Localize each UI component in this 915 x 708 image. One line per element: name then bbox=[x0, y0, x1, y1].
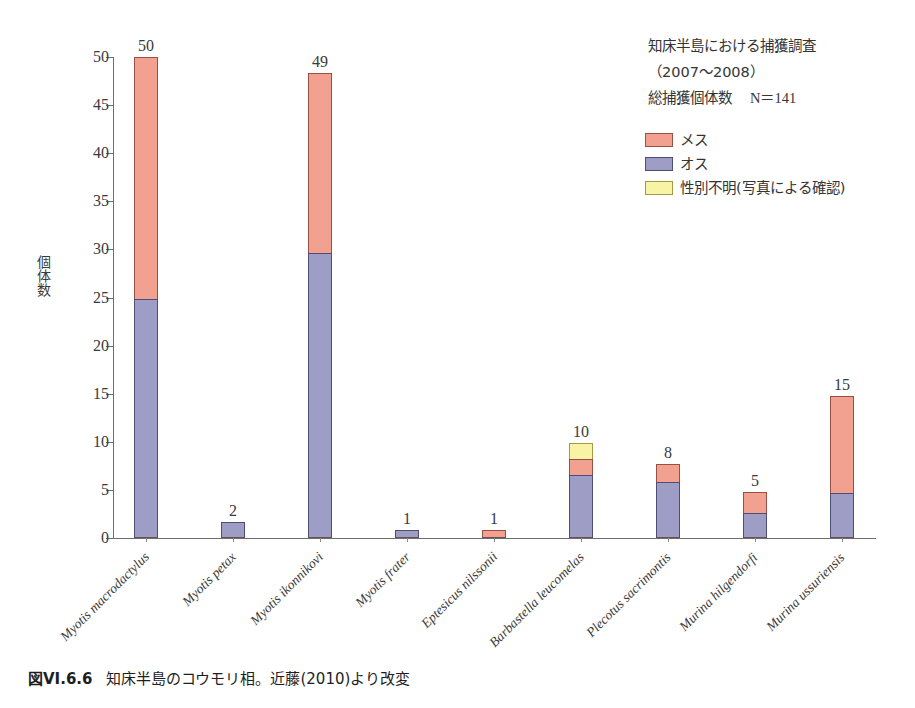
bar-segment-male bbox=[221, 522, 245, 538]
bar-segment-female bbox=[743, 492, 767, 513]
x-axis-species-label: Myotis ikonnikovi bbox=[248, 550, 326, 628]
y-axis-tick-label: 45 bbox=[93, 97, 109, 113]
x-axis-tick-mark bbox=[494, 538, 495, 542]
annotation-line-1: 知床半島における捕獲調査 bbox=[648, 33, 816, 59]
legend-label: メス bbox=[680, 133, 708, 148]
y-axis-tick-label: 15 bbox=[93, 386, 109, 402]
legend-label: 性別不明(写真による確認) bbox=[680, 181, 845, 196]
x-axis-tick-mark bbox=[842, 538, 843, 542]
bar-segment-female bbox=[482, 530, 506, 538]
figure-bat-fauna-shiretoko: 個体数 05101520253035404550 5024911108515 M… bbox=[0, 0, 915, 708]
legend-item: メス bbox=[645, 128, 845, 152]
bar-value-label: 15 bbox=[834, 377, 850, 393]
bar-segment-male bbox=[308, 253, 332, 538]
bar-segment-female bbox=[830, 396, 854, 493]
bar-value-label: 50 bbox=[138, 38, 154, 54]
total-captures-label: 総捕獲個体数 bbox=[648, 90, 732, 106]
legend-label: オス bbox=[680, 157, 708, 172]
bar-segment-female bbox=[569, 459, 593, 474]
y-axis-tick-label: 50 bbox=[93, 49, 109, 65]
legend-swatch-unknown bbox=[645, 181, 673, 195]
x-axis-species-label: Myotis frater bbox=[353, 550, 413, 610]
x-axis-species-label: Barbastella leucomelas bbox=[487, 550, 586, 649]
y-axis-tick-label: 20 bbox=[93, 338, 109, 354]
bar-stack[interactable]: 50 bbox=[134, 57, 158, 538]
caption-text: 知床半島のコウモリ相。近藤(2010)より改変 bbox=[106, 670, 410, 688]
y-axis-tick-label: 25 bbox=[93, 290, 109, 306]
bar-value-label: 49 bbox=[312, 54, 328, 70]
y-axis-title: 個体数 bbox=[28, 255, 50, 297]
bar-stack[interactable]: 10 bbox=[569, 443, 593, 538]
bar-value-label: 2 bbox=[229, 503, 237, 519]
bar-segment-male bbox=[569, 475, 593, 538]
bar-stack[interactable]: 1 bbox=[395, 530, 419, 538]
y-axis-tick-label: 10 bbox=[93, 434, 109, 450]
y-axis-tick-label: 30 bbox=[93, 241, 109, 257]
y-axis-tick-label: 0 bbox=[101, 530, 109, 546]
bar-stack[interactable]: 1 bbox=[482, 530, 506, 538]
x-axis-tick-mark bbox=[146, 538, 147, 542]
bar-stack[interactable]: 49 bbox=[308, 73, 332, 538]
bar-value-label: 1 bbox=[403, 511, 411, 527]
annotation-line-2: （2007〜2008） bbox=[648, 59, 816, 85]
total-captures-value: N＝141 bbox=[750, 90, 796, 106]
bar-segment-male bbox=[134, 299, 158, 538]
x-axis-species-label: Murina hilgendorfi bbox=[677, 550, 760, 633]
legend-item: 性別不明(写真による確認) bbox=[645, 176, 845, 200]
bar-value-label: 8 bbox=[664, 445, 672, 461]
x-axis-tick-mark bbox=[755, 538, 756, 542]
y-axis-tick-label: 40 bbox=[93, 145, 109, 161]
figure-caption: 図VI.6.6知床半島のコウモリ相。近藤(2010)より改変 bbox=[28, 672, 410, 687]
bar-segment-female bbox=[308, 73, 332, 253]
annotation-line-3: 総捕獲個体数N＝141 bbox=[648, 85, 816, 111]
bar-stack[interactable]: 8 bbox=[656, 464, 680, 538]
legend-swatch-female bbox=[645, 133, 673, 147]
x-axis-tick-mark bbox=[233, 538, 234, 542]
bar-segment-male bbox=[743, 513, 767, 538]
x-axis-tick-mark bbox=[320, 538, 321, 542]
bar-stack[interactable]: 5 bbox=[743, 492, 767, 538]
x-axis-tick-mark bbox=[407, 538, 408, 542]
x-axis-species-label: Eptesicus nilssonii bbox=[419, 550, 500, 631]
x-axis-species-label: Murina ussuriensis bbox=[764, 550, 847, 633]
bar-segment-female bbox=[134, 57, 158, 299]
legend-swatch-male bbox=[645, 157, 673, 171]
x-axis-species-label: Plecotus sacrimontis bbox=[584, 550, 673, 639]
y-axis-line bbox=[113, 57, 114, 538]
bar-stack[interactable]: 15 bbox=[830, 396, 854, 538]
y-axis-tick-label: 5 bbox=[101, 482, 109, 498]
survey-annotation: 知床半島における捕獲調査 （2007〜2008） 総捕獲個体数N＝141 bbox=[648, 33, 816, 111]
caption-number: 図VI.6.6 bbox=[28, 670, 92, 688]
x-axis-species-label: Myotis macrodactylus bbox=[58, 550, 152, 644]
legend-item: オス bbox=[645, 152, 845, 176]
x-axis-species-label: Myotis petax bbox=[180, 550, 239, 609]
bar-segment-male bbox=[395, 530, 419, 538]
bar-value-label: 5 bbox=[751, 473, 759, 489]
bar-stack[interactable]: 2 bbox=[221, 522, 245, 538]
x-axis-tick-mark bbox=[668, 538, 669, 542]
y-axis-tick-label: 35 bbox=[93, 193, 109, 209]
bar-value-label: 1 bbox=[490, 511, 498, 527]
legend: メスオス性別不明(写真による確認) bbox=[645, 128, 845, 200]
bar-segment-unknown bbox=[569, 443, 593, 459]
x-axis-tick-mark bbox=[581, 538, 582, 542]
bar-segment-male bbox=[830, 493, 854, 538]
bar-value-label: 10 bbox=[573, 424, 589, 440]
bar-segment-female bbox=[656, 464, 680, 482]
bar-segment-male bbox=[656, 482, 680, 538]
